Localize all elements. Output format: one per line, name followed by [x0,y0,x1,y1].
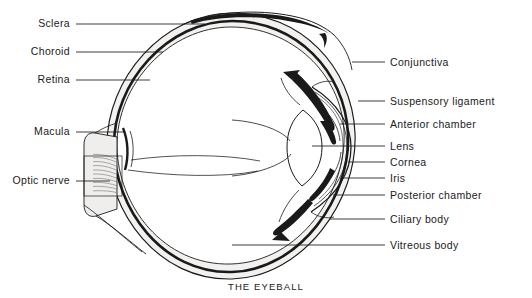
label-optic-nerve: Optic nerve [12,175,70,186]
label-retina: Retina [38,74,70,85]
label-cornea: Cornea [390,157,427,168]
label-suspensory-ligament: Suspensory ligament [390,96,495,107]
label-iris: Iris [390,173,405,184]
label-conjunctiva: Conjunctiva [390,57,449,68]
eyeball-figure: ScleraChoroidRetinaMaculaOptic nerveSusp… [0,0,532,298]
eyeball-diagram [0,0,532,298]
label-sclera: Sclera [38,18,70,29]
label-macula: Macula [34,126,70,137]
label-vitreous-body: Vitreous body [390,240,459,251]
label-ciliary-body: Ciliary body [390,214,449,225]
label-choroid: Choroid [31,46,70,57]
label-lens: Lens [390,141,414,152]
label-anterior-chamber: Anterior chamber [390,119,476,130]
label-posterior-chamber: Posterior chamber [390,190,482,201]
figure-caption: THE EYEBALL [0,281,532,292]
